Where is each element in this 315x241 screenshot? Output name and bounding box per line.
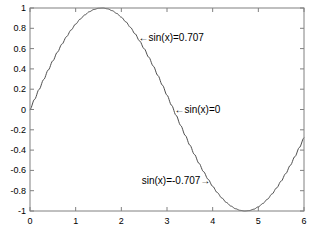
x-tick-label: 2 bbox=[119, 217, 124, 226]
y-tick-label: -0.4 bbox=[0, 146, 26, 155]
y-tick-label: -0.2 bbox=[0, 125, 26, 134]
x-tick-label: 0 bbox=[27, 217, 32, 226]
annotation-0707: ←sin(x)=0.707 bbox=[139, 33, 204, 43]
x-tick-label: 3 bbox=[164, 217, 169, 226]
x-tick-label: 1 bbox=[73, 217, 78, 226]
y-tick-label: -0.6 bbox=[0, 166, 26, 175]
y-tick-label: 0 bbox=[0, 105, 26, 114]
y-tick-label: 0.4 bbox=[0, 64, 26, 73]
y-tick-label: 0.6 bbox=[0, 44, 26, 53]
y-tick-label: 1 bbox=[0, 4, 26, 13]
y-tick-label: -0.8 bbox=[0, 186, 26, 195]
annotation-0: ←sin(x)=0 bbox=[174, 105, 220, 115]
figure-canvas: -1-0.8-0.6-0.4-0.200.20.40.60.81 0123456… bbox=[0, 0, 315, 241]
x-tick-label: 4 bbox=[210, 217, 215, 226]
y-tick-label: -1 bbox=[0, 207, 26, 216]
y-tick-label: 0.8 bbox=[0, 24, 26, 33]
annotation-neg0707: sin(x)=-0.707→ bbox=[142, 176, 211, 186]
x-tick-label: 6 bbox=[301, 217, 306, 226]
x-tick-label: 5 bbox=[256, 217, 261, 226]
y-tick-label: 0.2 bbox=[0, 85, 26, 94]
